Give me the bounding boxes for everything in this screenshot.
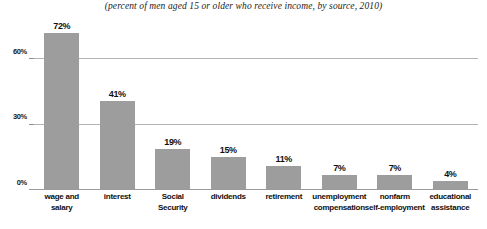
- bar-value-label: 41%: [100, 89, 135, 99]
- bar-rect: [44, 33, 79, 190]
- category-label-line: salary: [28, 203, 96, 214]
- bar-8[interactable]: 4%: [433, 20, 468, 190]
- bar-value-label: 15%: [211, 145, 246, 155]
- bar-1[interactable]: 72%: [44, 20, 79, 190]
- bar-rect: [100, 101, 135, 190]
- bar-rect: [155, 149, 190, 190]
- chart-subtitle: (percent of men aged 15 or older who rec…: [0, 1, 487, 11]
- y-axis-tick: [29, 124, 34, 125]
- bar-chart-figure: (percent of men aged 15 or older who rec…: [0, 0, 487, 229]
- bar-value-label: 72%: [44, 21, 79, 31]
- bar-value-label: 7%: [322, 163, 357, 173]
- bar-4[interactable]: 15%: [211, 20, 246, 190]
- category-label-line: educational: [417, 192, 485, 203]
- x-axis-line: [29, 189, 478, 190]
- bar-rect: [211, 157, 246, 190]
- bar-value-label: 19%: [155, 137, 190, 147]
- plot-area: 0%30%60% 72%41%19%15%11%7%7%4%: [34, 20, 478, 190]
- category-label-line: Security: [139, 203, 207, 214]
- bar-rect: [322, 175, 357, 190]
- bar-7[interactable]: 7%: [377, 20, 412, 190]
- bar-2[interactable]: 41%: [100, 20, 135, 190]
- bar-6[interactable]: 7%: [322, 20, 357, 190]
- y-axis-label: 30%: [13, 112, 27, 121]
- y-axis-label: 60%: [13, 46, 27, 55]
- bar-rect: [377, 175, 412, 190]
- y-axis-label: 0%: [17, 177, 27, 186]
- bar-3[interactable]: 19%: [155, 20, 190, 190]
- bar-value-label: 11%: [266, 154, 301, 164]
- bar-value-label: 4%: [433, 169, 468, 179]
- bar-5[interactable]: 11%: [266, 20, 301, 190]
- bar-rect: [266, 166, 301, 190]
- category-label-line: assistance: [417, 203, 485, 214]
- category-axis: wage andsalaryinterestSocialSecuritydivi…: [34, 192, 478, 228]
- y-axis-tick: [29, 58, 34, 59]
- category-label-8: educationalassistance: [417, 192, 485, 213]
- bar-value-label: 7%: [377, 163, 412, 173]
